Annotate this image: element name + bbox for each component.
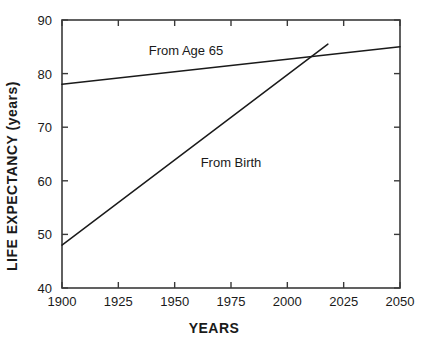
series-line-from-birth — [62, 44, 328, 245]
series-annotation: From Age 65 — [149, 43, 223, 58]
life-expectancy-chart: LIFE EXPECTANCY (years) 1900192519501975… — [0, 0, 428, 352]
y-tick-label: 70 — [38, 120, 52, 135]
x-tick-label: 2050 — [386, 294, 415, 309]
y-tick-label: 90 — [38, 13, 52, 28]
x-tick-label: 1950 — [160, 294, 189, 309]
x-axis-title: YEARS — [0, 320, 428, 336]
x-tick-label: 1900 — [48, 294, 77, 309]
x-tick-label: 2000 — [273, 294, 302, 309]
x-tick-label: 1925 — [104, 294, 133, 309]
plot-frame — [62, 20, 400, 288]
y-tick-label: 80 — [38, 67, 52, 82]
y-tick-label: 60 — [38, 174, 52, 189]
x-tick-label: 2025 — [329, 294, 358, 309]
y-tick-label: 50 — [38, 227, 52, 242]
plot-area: 1900192519501975200020252050405060708090… — [0, 0, 428, 352]
series-annotation: From Birth — [201, 155, 262, 170]
y-tick-label: 40 — [38, 281, 52, 296]
series-line-from-age-65 — [62, 47, 400, 85]
x-tick-label: 1975 — [217, 294, 246, 309]
